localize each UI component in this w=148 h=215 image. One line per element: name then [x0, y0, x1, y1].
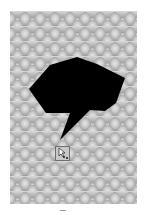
edit-nodes-tool-button[interactable] — [55, 146, 70, 161]
caption-mark — [60, 210, 66, 211]
pen-edit-nodes-icon — [56, 147, 69, 160]
textured-canvas — [10, 11, 137, 204]
